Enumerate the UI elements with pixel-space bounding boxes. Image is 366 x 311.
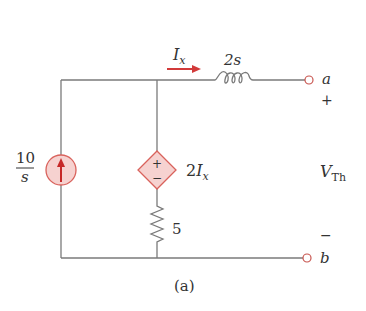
- inductor: [215, 72, 253, 83]
- thevenin-voltage-label: VTh: [320, 162, 346, 184]
- figure-caption: (a): [174, 277, 195, 295]
- terminal-a: [305, 76, 313, 84]
- current-source: [46, 155, 76, 185]
- resistor-label: 5: [172, 220, 182, 238]
- terminal-b-polarity: −: [320, 227, 332, 243]
- current-arrow-label: Ix: [172, 45, 186, 67]
- inductor-label: 2s: [223, 51, 242, 69]
- wires: [61, 80, 305, 258]
- minus-sign: −: [152, 171, 162, 185]
- terminal-a-polarity: +: [321, 92, 333, 108]
- current-arrow-head-icon: [192, 65, 201, 73]
- current-source-label-denominator: s: [21, 168, 29, 186]
- current-source-label: 10 s: [16, 149, 35, 186]
- resistor-zigzag-icon: [151, 203, 163, 246]
- terminal-b: [303, 254, 311, 262]
- circuit-diagram: 2s Ix 10 s + − 2Ix 5 a + b − VTh (a): [0, 0, 366, 311]
- terminal-a-label: a: [322, 70, 331, 88]
- plus-sign: +: [152, 157, 162, 171]
- dependent-source-label: 2Ix: [186, 161, 210, 183]
- inductor-coil-icon: [215, 72, 253, 83]
- dependent-voltage-source: + −: [138, 151, 176, 189]
- current-source-label-numerator: 10: [16, 149, 35, 167]
- terminal-b-label: b: [320, 249, 330, 267]
